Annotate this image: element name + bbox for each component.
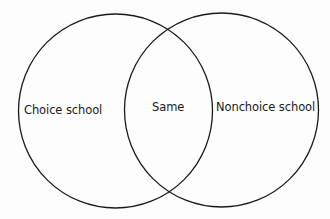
choice-school-label: Choice school	[24, 103, 102, 117]
same-label: Same	[152, 100, 184, 114]
venn-diagram: Choice school Same Nonchoice school	[0, 0, 330, 219]
nonchoice-school-label: Nonchoice school	[216, 100, 315, 114]
